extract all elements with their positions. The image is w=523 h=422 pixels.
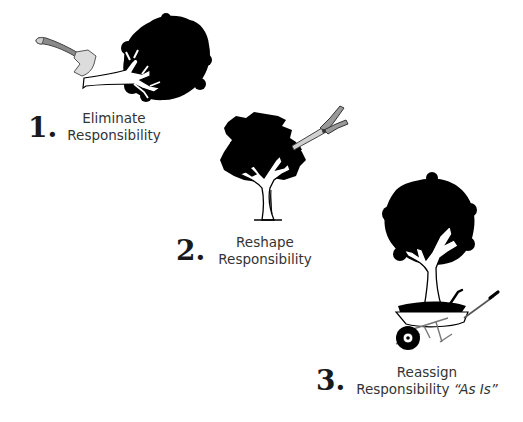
tree-canopy-icon (382, 172, 477, 265)
tree-in-wheelbarrow-icon (0, 0, 523, 422)
step-label: Reassign Responsibility “As Is” (352, 364, 502, 398)
step-label-line1: Reassign (352, 364, 502, 381)
step-label-line2-text: Responsibility (356, 381, 449, 397)
as-is-emphasis: “As Is” (454, 381, 498, 397)
step-label-line2: Responsibility “As Is” (352, 381, 502, 398)
wheelbarrow-icon (396, 290, 498, 350)
step-number: 3. (316, 367, 345, 395)
